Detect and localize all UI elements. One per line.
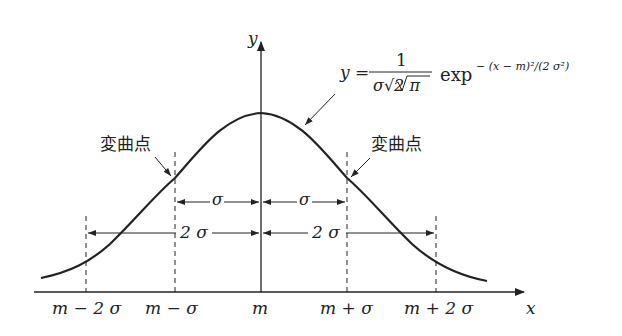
- span-two-sigma-left: 2 σ: [180, 224, 208, 241]
- tick-m-plus-sigma: m + σ: [320, 300, 373, 317]
- equation-denominator: σ√2 π: [373, 78, 420, 94]
- inflection-point-label-right: 変曲点: [371, 136, 422, 153]
- y-axis-label: y: [248, 30, 258, 47]
- equation-exponent: − (x − m)²/(2 σ²): [476, 61, 569, 72]
- diagram-canvas: [0, 0, 622, 336]
- normal-distribution-diagram: y x y = 1 σ√2 π exp − (x − m)²/(2 σ²) 変曲…: [0, 0, 622, 336]
- tick-m-minus-sigma: m − σ: [145, 300, 198, 317]
- equation-exp: exp: [440, 66, 472, 84]
- span-sigma-left: σ: [212, 192, 223, 208]
- span-sigma-right: σ: [299, 192, 310, 208]
- x-axis-label: x: [526, 300, 536, 317]
- tick-m-plus-2sigma: m + 2 σ: [404, 300, 473, 317]
- tick-m: m: [252, 300, 268, 317]
- equation-numerator: 1: [396, 52, 407, 69]
- tick-m-minus-2sigma: m − 2 σ: [52, 300, 121, 317]
- equation-lhs: y =: [340, 64, 369, 81]
- inflection-point-label-left: 変曲点: [100, 136, 151, 153]
- span-two-sigma-right: 2 σ: [312, 224, 340, 241]
